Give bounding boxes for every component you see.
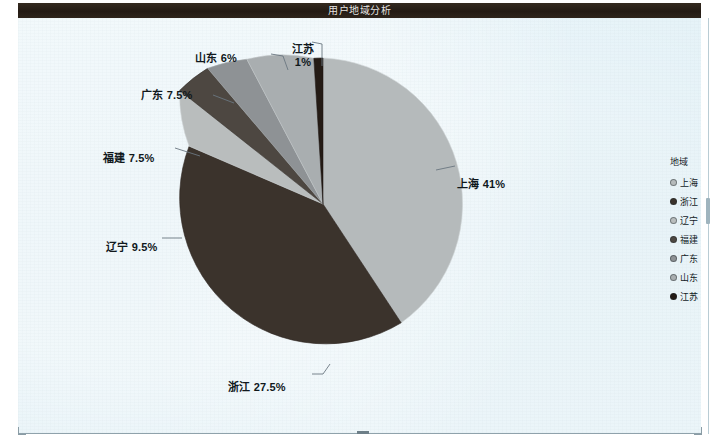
legend-item-label: 上海 (680, 176, 698, 189)
legend-item-fujian[interactable]: 福建 (670, 230, 718, 249)
pie-label-shanghai: 上海 41% (457, 178, 505, 191)
legend-swatch-icon (670, 274, 677, 281)
pie-label-guangdong: 广东 7.5% (141, 89, 193, 102)
pie-chart (0, 0, 683, 416)
legend-item-shanghai[interactable]: 上海 (670, 173, 718, 192)
legend-swatch-icon (670, 217, 677, 224)
legend-item-label: 广东 (680, 252, 698, 265)
pie-label-zhejiang: 浙江 27.5% (228, 381, 286, 394)
legend-item-label: 辽宁 (680, 214, 698, 227)
pie-chart-svg (0, 0, 683, 416)
panel-corner-bottom-left (18, 427, 26, 435)
pie-label-jiangsu: 江苏 1% (283, 43, 323, 68)
legend-item-jiangsu[interactable]: 江苏 (670, 287, 718, 306)
pie-label-shandong: 山东 6% (195, 52, 237, 65)
legend-item-liaoning[interactable]: 辽宁 (670, 211, 718, 230)
pie-label-jiangsu-name: 江苏 (292, 43, 314, 55)
pie-label-liaoning: 辽宁 9.5% (106, 241, 158, 254)
legend-item-label: 江苏 (680, 290, 698, 303)
legend-item-label: 福建 (680, 233, 698, 246)
legend-item-label: 山东 (680, 271, 698, 284)
legend: 地域 上海 浙江 辽宁 福建 广东 山东 江苏 (670, 155, 718, 306)
leader-line-zhejiang (312, 364, 330, 374)
legend-item-zhejiang[interactable]: 浙江 (670, 192, 718, 211)
legend-swatch-icon (670, 236, 677, 243)
legend-item-shandong[interactable]: 山东 (670, 268, 718, 287)
legend-swatch-icon (670, 198, 677, 205)
legend-title: 地域 (670, 155, 718, 168)
legend-item-guangdong[interactable]: 广东 (670, 249, 718, 268)
chart-window: 用户地域分析 (0, 0, 719, 448)
legend-item-label: 浙江 (680, 195, 698, 208)
legend-swatch-icon (670, 293, 677, 300)
pie-label-fujian: 福建 7.5% (103, 152, 155, 165)
panel-corner-bottom-right (694, 427, 702, 435)
pie-label-jiangsu-value: 1% (295, 56, 311, 68)
panel-bottom-handle[interactable] (357, 431, 369, 434)
legend-swatch-icon (670, 255, 677, 262)
legend-swatch-icon (670, 179, 677, 186)
